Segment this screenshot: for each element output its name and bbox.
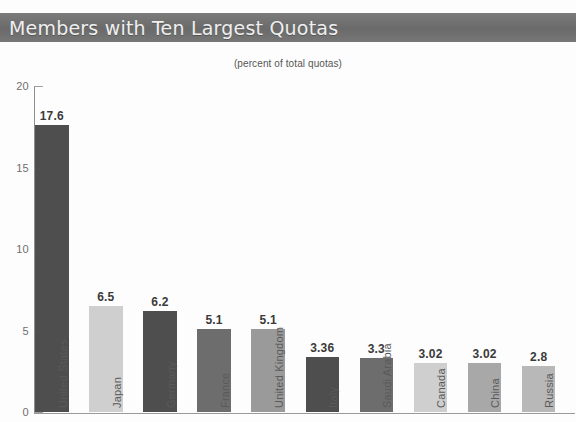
bar-slot: 17.6United States	[35, 86, 89, 412]
bar-category-label: Saudi Arabia	[381, 343, 393, 408]
bar-slot: 3.02China	[468, 86, 522, 412]
page-title: Members with Ten Largest Quotas	[0, 17, 338, 39]
bar-category-label: United Kingdom	[273, 327, 285, 408]
bar-value-label: 3.02	[472, 347, 496, 361]
y-axis-tick-label: 20	[0, 80, 34, 92]
bar-slot: 3.36Italy	[306, 86, 360, 412]
chart-title-banner: Members with Ten Largest Quotas	[0, 13, 576, 42]
bar-value-label: 6.5	[97, 290, 114, 304]
bar-series: 17.6United States6.5Japan6.2Germany5.1Fr…	[35, 86, 576, 412]
bar-category-label: France	[219, 373, 231, 408]
chart-page: Members with Ten Largest Quotas (percent…	[0, 0, 576, 422]
bar-slot: 6.2Germany	[143, 86, 197, 412]
y-axis-tick-label: 10	[0, 243, 34, 255]
bar-value-label: 3.02	[418, 347, 442, 361]
chart-subtitle: (percent of total quotas)	[0, 58, 576, 69]
y-axis-tick-mark	[34, 412, 43, 413]
bar-category-label: United States	[57, 339, 69, 408]
bar-category-label: Germany	[165, 361, 177, 408]
bar-slot: 5.1France	[197, 86, 251, 412]
bar-slot: 5.1United Kingdom	[251, 86, 305, 412]
y-axis-tick-label: 0	[0, 406, 34, 418]
bar-category-label: China	[489, 378, 501, 408]
bar-category-label: Italy	[327, 387, 339, 408]
bar-slot: 3.02Canada	[414, 86, 468, 412]
bar-category-label: Canada	[435, 368, 447, 408]
bar-value-label: 2.8	[530, 350, 547, 364]
bar-value-label: 5.1	[205, 313, 222, 327]
bar-value-label: 3.36	[310, 341, 334, 355]
bar-value-label: 5.1	[260, 313, 277, 327]
bar-category-label: Russia	[543, 373, 555, 408]
bar-slot: 2.8Russia	[522, 86, 576, 412]
bar-slot: 3.3Saudi Arabia	[360, 86, 414, 412]
bar-value-label: 6.2	[151, 295, 168, 309]
bar-value-label: 17.6	[40, 109, 64, 123]
bar-category-label: Japan	[111, 377, 123, 408]
y-axis-tick-label: 15	[0, 162, 34, 174]
y-axis-tick-label: 5	[0, 325, 34, 337]
bar-slot: 6.5Japan	[89, 86, 143, 412]
